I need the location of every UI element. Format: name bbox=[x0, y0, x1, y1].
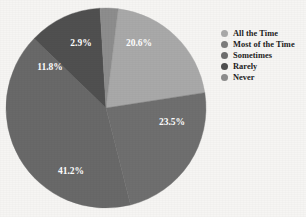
pie-slice-value-label: 23.5% bbox=[159, 117, 185, 127]
legend-item-label: All the Time bbox=[233, 29, 278, 38]
pie-svg: 20.6%23.5%41.2%11.8%2.9% bbox=[0, 0, 220, 217]
legend-swatch-icon bbox=[221, 52, 228, 59]
legend-item-all-the-time[interactable]: All the Time bbox=[221, 28, 306, 39]
legend-swatch-icon bbox=[221, 63, 228, 70]
legend-swatch-icon bbox=[221, 30, 228, 37]
pie-slice-value-label: 41.2% bbox=[58, 166, 84, 176]
legend-item-label: Rarely bbox=[233, 62, 257, 71]
legend-item-label: Never bbox=[233, 73, 255, 82]
legend-item-never[interactable]: Never bbox=[221, 72, 306, 83]
chart-legend: All the TimeMost of the TimeSometimesRar… bbox=[221, 28, 306, 83]
pie-chart-area: 20.6%23.5%41.2%11.8%2.9% bbox=[0, 0, 220, 217]
pie-slice-value-label: 2.9% bbox=[70, 38, 91, 48]
pie-chart-figure: 20.6%23.5%41.2%11.8%2.9% All the TimeMos… bbox=[0, 0, 306, 217]
pie-slices-group bbox=[6, 8, 206, 208]
legend-swatch-icon bbox=[221, 74, 228, 81]
legend-item-sometimes[interactable]: Sometimes bbox=[221, 50, 306, 61]
legend-item-most-of-the-time[interactable]: Most of the Time bbox=[221, 39, 306, 50]
pie-slice[interactable] bbox=[106, 9, 205, 108]
pie-slice-value-label: 20.6% bbox=[126, 38, 152, 48]
legend-item-label: Most of the Time bbox=[233, 40, 295, 49]
legend-item-label: Sometimes bbox=[233, 51, 272, 60]
legend-swatch-icon bbox=[221, 41, 228, 48]
pie-slice-value-label: 11.8% bbox=[37, 62, 63, 72]
legend-item-rarely[interactable]: Rarely bbox=[221, 61, 306, 72]
